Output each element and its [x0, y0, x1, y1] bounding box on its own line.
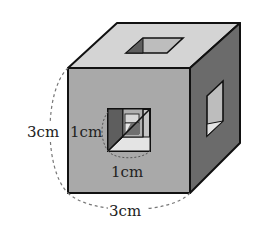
front-hole: [108, 109, 150, 151]
cube-diagram: 3cm 1cm 1cm 3cm: [0, 0, 257, 236]
cube-width-label: 3cm: [109, 202, 141, 220]
hole-width-label: 1cm: [111, 163, 143, 181]
hole-height-label: 1cm: [70, 123, 102, 141]
cube-height-label: 3cm: [27, 123, 59, 141]
